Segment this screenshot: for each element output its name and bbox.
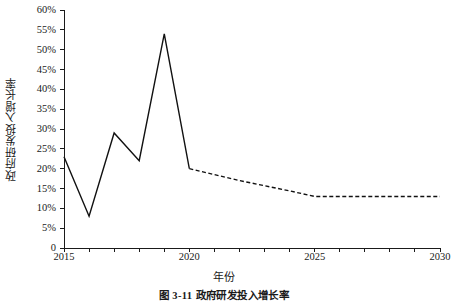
tick-marks bbox=[60, 10, 440, 252]
axes bbox=[64, 10, 440, 248]
x-axis-tick-labels: 2015202020252030 bbox=[0, 252, 448, 268]
axis-frame bbox=[64, 10, 440, 248]
x-axis-title: 年份 bbox=[0, 268, 448, 284]
x-tick-label: 2025 bbox=[304, 252, 325, 263]
x-tick-label: 2015 bbox=[54, 252, 75, 263]
series-historical-line bbox=[64, 34, 189, 216]
x-tick-label: 2020 bbox=[179, 252, 200, 263]
series-forecast-line bbox=[189, 169, 440, 197]
figure-caption: 图 3-11 政府研发投入增长率 bbox=[0, 287, 448, 301]
x-tick-label: 2030 bbox=[430, 252, 451, 263]
